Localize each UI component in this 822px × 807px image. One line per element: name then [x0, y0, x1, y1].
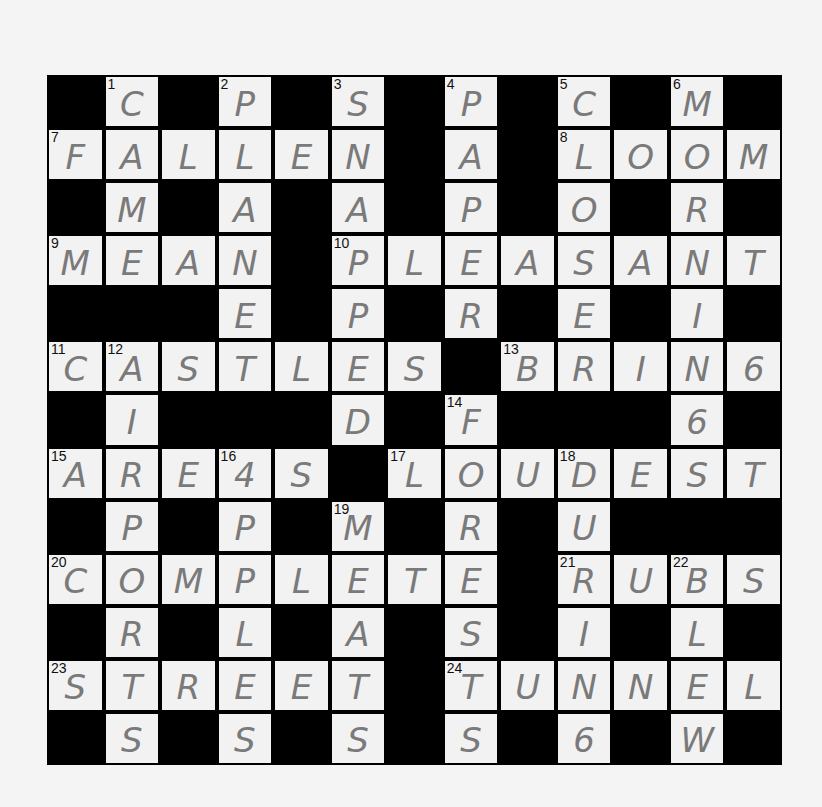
- grid-cell[interactable]: L: [219, 130, 272, 179]
- grid-cell[interactable]: E: [614, 449, 667, 498]
- grid-cell[interactable]: A: [332, 608, 385, 657]
- grid-cell[interactable]: P: [219, 502, 272, 551]
- grid-cell[interactable]: R: [558, 342, 611, 391]
- grid-cell[interactable]: O: [614, 130, 667, 179]
- grid-cell[interactable]: S: [727, 555, 780, 604]
- grid-cell[interactable]: E: [219, 661, 272, 710]
- grid-cell[interactable]: 13B: [501, 342, 554, 391]
- grid-cell[interactable]: S: [445, 608, 498, 657]
- grid-cell[interactable]: P: [106, 502, 159, 551]
- grid-cell[interactable]: E: [106, 236, 159, 285]
- grid-cell[interactable]: E: [275, 661, 328, 710]
- grid-cell[interactable]: T: [106, 661, 159, 710]
- grid-cell[interactable]: S: [558, 236, 611, 285]
- grid-cell[interactable]: S: [162, 342, 215, 391]
- grid-cell[interactable]: 22B: [671, 555, 724, 604]
- grid-cell[interactable]: 11C: [49, 342, 102, 391]
- grid-cell[interactable]: N: [671, 342, 724, 391]
- grid-cell[interactable]: E: [275, 130, 328, 179]
- grid-cell[interactable]: R: [445, 289, 498, 338]
- grid-cell[interactable]: N: [332, 130, 385, 179]
- grid-cell[interactable]: L: [275, 342, 328, 391]
- grid-cell[interactable]: L: [275, 555, 328, 604]
- grid-cell[interactable]: R: [671, 183, 724, 232]
- grid-cell[interactable]: A: [501, 236, 554, 285]
- grid-cell[interactable]: W: [671, 714, 724, 763]
- grid-cell[interactable]: 6M: [671, 77, 724, 126]
- grid-cell[interactable]: N: [671, 236, 724, 285]
- grid-cell[interactable]: R: [445, 502, 498, 551]
- grid-cell[interactable]: A: [445, 130, 498, 179]
- grid-cell[interactable]: S: [332, 714, 385, 763]
- grid-cell[interactable]: 18D: [558, 449, 611, 498]
- grid-cell[interactable]: I: [671, 289, 724, 338]
- grid-cell[interactable]: T: [332, 661, 385, 710]
- grid-cell[interactable]: M: [727, 130, 780, 179]
- grid-cell[interactable]: D: [332, 395, 385, 444]
- grid-cell[interactable]: L: [727, 661, 780, 710]
- grid-cell[interactable]: S: [275, 449, 328, 498]
- grid-cell[interactable]: L: [671, 608, 724, 657]
- grid-cell[interactable]: R: [162, 661, 215, 710]
- grid-cell[interactable]: P: [445, 183, 498, 232]
- grid-cell[interactable]: 21R: [558, 555, 611, 604]
- grid-cell[interactable]: 20C: [49, 555, 102, 604]
- grid-cell[interactable]: S: [671, 449, 724, 498]
- grid-cell[interactable]: U: [558, 502, 611, 551]
- grid-cell[interactable]: 2P: [219, 77, 272, 126]
- grid-cell[interactable]: O: [445, 449, 498, 498]
- grid-cell[interactable]: E: [445, 555, 498, 604]
- grid-cell[interactable]: 4P: [445, 77, 498, 126]
- grid-cell[interactable]: O: [671, 130, 724, 179]
- grid-cell[interactable]: I: [106, 395, 159, 444]
- grid-cell[interactable]: 9M: [49, 236, 102, 285]
- grid-cell[interactable]: S: [219, 714, 272, 763]
- grid-cell[interactable]: E: [332, 342, 385, 391]
- grid-cell[interactable]: E: [671, 661, 724, 710]
- grid-cell[interactable]: R: [106, 449, 159, 498]
- grid-cell[interactable]: E: [332, 555, 385, 604]
- grid-cell[interactable]: U: [614, 555, 667, 604]
- grid-cell[interactable]: P: [219, 555, 272, 604]
- grid-cell[interactable]: M: [106, 183, 159, 232]
- grid-cell[interactable]: 7F: [49, 130, 102, 179]
- grid-cell[interactable]: T: [727, 236, 780, 285]
- grid-cell[interactable]: N: [558, 661, 611, 710]
- grid-cell[interactable]: T: [727, 449, 780, 498]
- grid-cell[interactable]: 23S: [49, 661, 102, 710]
- grid-cell[interactable]: T: [388, 555, 441, 604]
- grid-cell[interactable]: A: [614, 236, 667, 285]
- grid-cell[interactable]: L: [388, 236, 441, 285]
- grid-cell[interactable]: E: [162, 449, 215, 498]
- grid-cell[interactable]: 24T: [445, 661, 498, 710]
- grid-cell[interactable]: A: [162, 236, 215, 285]
- grid-cell[interactable]: 12A: [106, 342, 159, 391]
- grid-cell[interactable]: 19M: [332, 502, 385, 551]
- grid-cell[interactable]: R: [106, 608, 159, 657]
- grid-cell[interactable]: P: [332, 289, 385, 338]
- grid-cell[interactable]: N: [219, 236, 272, 285]
- grid-cell[interactable]: U: [501, 449, 554, 498]
- grid-cell[interactable]: 6: [671, 395, 724, 444]
- grid-cell[interactable]: S: [445, 714, 498, 763]
- grid-cell[interactable]: L: [219, 608, 272, 657]
- grid-cell[interactable]: 6: [558, 714, 611, 763]
- grid-cell[interactable]: 10P: [332, 236, 385, 285]
- grid-cell[interactable]: A: [219, 183, 272, 232]
- grid-cell[interactable]: S: [388, 342, 441, 391]
- grid-cell[interactable]: 1C: [106, 77, 159, 126]
- grid-cell[interactable]: U: [501, 661, 554, 710]
- grid-cell[interactable]: L: [162, 130, 215, 179]
- grid-cell[interactable]: E: [219, 289, 272, 338]
- grid-cell[interactable]: 14F: [445, 395, 498, 444]
- grid-cell[interactable]: 17L: [388, 449, 441, 498]
- grid-cell[interactable]: S: [106, 714, 159, 763]
- grid-cell[interactable]: 8L: [558, 130, 611, 179]
- grid-cell[interactable]: M: [162, 555, 215, 604]
- grid-cell[interactable]: 5C: [558, 77, 611, 126]
- grid-cell[interactable]: I: [614, 342, 667, 391]
- grid-cell[interactable]: 15A: [49, 449, 102, 498]
- grid-cell[interactable]: I: [558, 608, 611, 657]
- grid-cell[interactable]: T: [219, 342, 272, 391]
- grid-cell[interactable]: E: [445, 236, 498, 285]
